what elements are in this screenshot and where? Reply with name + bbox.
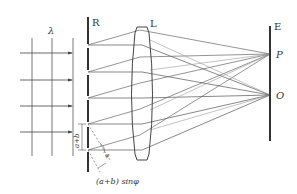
- incident-wavefronts: [32, 38, 73, 156]
- slit-spacing-label: a+b: [73, 133, 81, 148]
- point-o-label: O: [276, 90, 284, 101]
- grating-label: R: [92, 17, 100, 28]
- angle-label: φ: [105, 151, 110, 159]
- diagram-canvas: λ R L E P O a+b φ (a+b) sinφ: [0, 0, 297, 194]
- diffraction-grating-diagram: λ R L E P O a+b φ (a+b) sinφ: [0, 0, 297, 194]
- incident-rays: [20, 53, 72, 132]
- rays-to-o: [88, 45, 270, 150]
- point-p-label: P: [275, 49, 283, 60]
- lens: [132, 27, 153, 160]
- lens-label: L: [150, 18, 157, 29]
- wavelength-label: λ: [47, 25, 54, 36]
- crossing-rays: [150, 40, 270, 130]
- path-difference-label: (a+b) sinφ: [96, 177, 139, 186]
- screen-label: E: [274, 21, 281, 32]
